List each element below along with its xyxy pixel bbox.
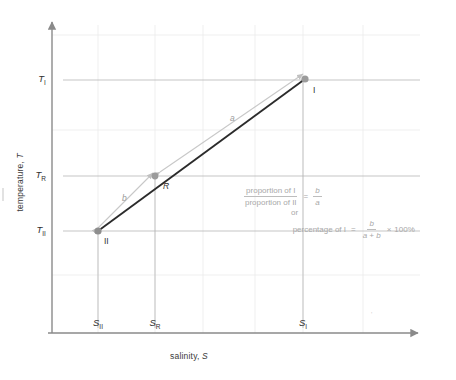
proportion-formula: proportion of I proportion of II = b a o… (243, 186, 415, 240)
y-tick-label-T-II: TII (36, 225, 46, 237)
ts-diagram-figure: TI TR TII SII SR SI I R II a b temperatu… (0, 0, 456, 380)
page-edge-artifact (2, 188, 4, 201)
formula-denominator-text: proportion of II (243, 197, 299, 207)
formula-percentage-label: percentage of I (243, 225, 346, 234)
point-label-II: II (104, 237, 109, 246)
y-tick-label-T-R: TR (35, 170, 46, 182)
stray-speck: ' (371, 311, 372, 318)
formula-equals-1: = (304, 192, 309, 201)
segment-label-a: a (230, 114, 235, 123)
formula-ratio-b-over-ab: b a + b (361, 219, 383, 240)
formula-ratio-ba: b a (313, 186, 321, 207)
formula-frac-num-b: b (313, 186, 321, 197)
vertical-gridlines (98, 25, 363, 333)
marker-point-II (94, 227, 101, 234)
marker-point-I (301, 75, 308, 82)
point-label-I: I (313, 86, 315, 95)
x-axis-title: salinity, S (170, 352, 208, 361)
formula-times-sign: × (387, 225, 392, 234)
axis-lines (48, 22, 418, 333)
y-tick-label-T-I: TI (38, 74, 46, 86)
formula-ratio-words: proportion of I proportion of II (243, 186, 299, 207)
formula-numerator-text: proportion of I (244, 186, 297, 197)
formula-row-1: proportion of I proportion of II = b a (243, 186, 415, 207)
x-tick-label-S-I: SI (299, 318, 307, 330)
marker-point-R (152, 173, 159, 180)
segment-label-b: b (122, 194, 127, 203)
y-axis-title: temperature, T (16, 139, 25, 225)
point-label-R: R (163, 182, 169, 191)
formula-row-2: percentage of I = b a + b × 100% (243, 219, 415, 240)
formula-frac-den-a: a (313, 197, 321, 207)
x-tick-label-S-II: SII (93, 318, 103, 330)
formula-equals-2: = (351, 225, 356, 234)
formula-frac2-num-b: b (367, 219, 375, 230)
formula-frac2-den-ab: a + b (361, 230, 383, 240)
formula-connector-or: or (243, 208, 346, 217)
x-tick-label-S-R: SR (149, 318, 160, 330)
segment-a-arrow (160, 74, 303, 172)
formula-percent-value: 100% (394, 225, 414, 234)
